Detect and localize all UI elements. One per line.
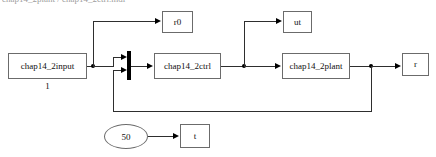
wire-branch-to-r <box>371 66 395 67</box>
wire-feedback-up <box>113 70 114 111</box>
wire-feedback-left <box>113 111 372 112</box>
arrowhead-into-t <box>173 133 179 139</box>
wire-sum-upper-riser <box>113 57 114 67</box>
block-chap14-2ctrl[interactable]: chap14_2ctrl <box>154 53 221 79</box>
wire-branch-to-plant <box>244 66 275 67</box>
block-scope-r0-label: r0 <box>174 18 182 27</box>
block-scope-t-label: t <box>194 132 197 141</box>
clipped-title-text: chap14_2plant / chap14_2ctrl.mdl <box>2 0 170 4</box>
wire-input-branch-up <box>93 21 94 66</box>
wire-sum-to-ctrl <box>131 66 147 67</box>
wire-ctrl-to-ut <box>244 21 276 22</box>
block-scope-r[interactable]: r <box>402 53 429 76</box>
arrowhead-into-ut <box>276 18 282 24</box>
wire-input-to-r0 <box>93 21 155 22</box>
block-chap14-2input-caption: 1 <box>8 81 87 91</box>
block-chap14-2plant-label: chap14_2plant <box>290 62 343 71</box>
arrowhead-sum-lower-input <box>121 67 127 73</box>
block-scope-r0[interactable]: r0 <box>162 11 193 33</box>
block-chap14-2ctrl-label: chap14_2ctrl <box>164 62 211 71</box>
block-scope-t[interactable]: t <box>180 124 210 148</box>
block-scope-ut[interactable]: ut <box>283 11 312 33</box>
block-clock-constant-label: 50 <box>122 132 131 142</box>
arrowhead-into-ctrl <box>147 63 153 69</box>
block-scope-ut-label: ut <box>294 18 301 27</box>
arrowhead-sum-upper-input <box>121 54 127 60</box>
wire-input-to-sum-run <box>93 66 113 67</box>
wire-feedback-down <box>371 66 372 111</box>
block-clock-constant[interactable]: 50 <box>104 124 148 149</box>
wire-ctrl-branch-up <box>244 21 245 66</box>
arrowhead-into-r0 <box>155 18 161 24</box>
arrowhead-into-plant <box>275 63 281 69</box>
arrowhead-into-r <box>395 63 401 69</box>
wire-clock-to-t <box>148 136 173 137</box>
block-scope-r-label: r <box>414 60 417 69</box>
block-chap14-2input[interactable]: chap14_2input <box>8 53 87 79</box>
simulink-model-canvas[interactable]: chap14_2plant / chap14_2ctrl.mdl chap14_… <box>0 0 436 157</box>
block-chap14-2plant[interactable]: chap14_2plant <box>282 53 350 79</box>
clipped-title-strip: chap14_2plant / chap14_2ctrl.mdl <box>2 0 170 5</box>
block-chap14-2input-label: chap14_2input <box>21 62 75 71</box>
